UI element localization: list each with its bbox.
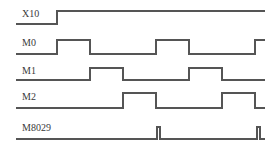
signal-x10: X10 bbox=[16, 8, 265, 24]
signal-label-m8029: M8029 bbox=[22, 122, 51, 133]
signal-label-m2: M2 bbox=[22, 91, 36, 102]
signal-m8029: M8029 bbox=[16, 122, 265, 139]
signal-label-m0: M0 bbox=[22, 37, 36, 48]
signal-m1: M1 bbox=[16, 65, 265, 80]
signal-m0: M0 bbox=[16, 37, 265, 54]
waveform-m0 bbox=[16, 40, 265, 54]
signal-label-x10: X10 bbox=[22, 8, 39, 19]
waveform-m8029 bbox=[16, 127, 265, 139]
signal-m2: M2 bbox=[16, 91, 265, 108]
waveform-x10 bbox=[16, 11, 265, 24]
waveform-m2 bbox=[16, 93, 265, 108]
timing-diagram: X10 M0 M1 M2 M8029 bbox=[0, 0, 279, 151]
signal-label-m1: M1 bbox=[22, 65, 36, 76]
waveform-m1 bbox=[16, 68, 265, 80]
